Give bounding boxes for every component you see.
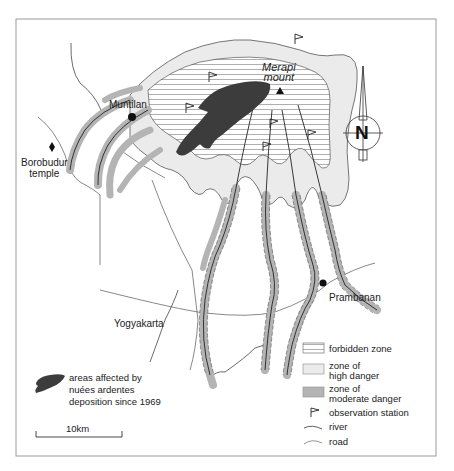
legend-forbidden-swatch — [303, 343, 324, 353]
volcano-label: Merapi mount — [262, 62, 296, 82]
yogyakarta-label: Yogyakarta — [114, 318, 164, 329]
borobudur-label: Borobudur temple — [21, 157, 68, 179]
prambanan-label: Prambanan — [329, 292, 381, 303]
borobudur-name-line2: temple — [21, 168, 68, 179]
legend-road-label: road — [329, 437, 348, 447]
nuees-legend-line1: areas affected by — [69, 372, 161, 384]
muntilan-dot — [128, 113, 136, 121]
legend-moderate-danger-swatch — [303, 387, 324, 397]
volcano-name-line2: mount — [262, 72, 296, 82]
nuees-legend-line3: deposition since 1969 — [69, 396, 161, 408]
prambanan-dot — [319, 279, 326, 286]
legend-high-danger-swatch — [303, 364, 324, 374]
muntilan-label: Muntilan — [109, 99, 147, 110]
legend-moderate-danger-line2: moderate danger — [329, 394, 401, 404]
north-arrow-letter: N — [355, 123, 369, 143]
scale-bar-label: 10km — [66, 424, 89, 434]
nuees-legend-text: areas affected by nuées ardentes deposit… — [69, 372, 161, 408]
borobudur-name: Borobudur — [21, 157, 68, 168]
legend-observation-label: observation station — [329, 408, 409, 418]
nuees-legend-line2: nuées ardentes — [69, 384, 161, 396]
legend-moderate-danger-label: zone of moderate danger — [329, 384, 401, 404]
legend-high-danger-label: zone of high danger — [329, 361, 379, 381]
legend-forbidden-label: forbidden zone — [329, 344, 392, 354]
legend-high-danger-line2: high danger — [329, 371, 379, 381]
legend-river-label: river — [329, 422, 347, 432]
